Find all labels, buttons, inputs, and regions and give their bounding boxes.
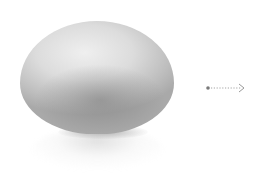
dotted-arrow-right-icon	[205, 82, 247, 94]
egg	[20, 21, 174, 134]
